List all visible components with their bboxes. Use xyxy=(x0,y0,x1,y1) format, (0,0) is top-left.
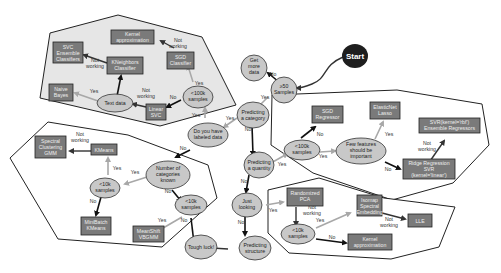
svg-text:looking: looking xyxy=(239,204,256,210)
decision-tough-luck[interactable]: Tough luck! xyxy=(185,235,217,259)
svg-text:No: No xyxy=(90,198,97,204)
svg-text:Samples: Samples xyxy=(274,89,295,95)
svg-text:important: important xyxy=(350,153,372,159)
estimator-isomap-spectral-embedding[interactable]: Isomap Spectral Embedding xyxy=(356,195,382,216)
svg-text:samples: samples xyxy=(95,187,115,193)
estimator-ridge-regression-svr-linear[interactable]: Ridge Regression SVR (kernel='linear') xyxy=(403,159,455,179)
decision-classification-lt100k[interactable]: <100k samples xyxy=(183,86,213,108)
svg-text:data: data xyxy=(249,69,259,75)
svg-text:No: No xyxy=(170,94,177,100)
decision-predicting-structure[interactable]: Predicting structure xyxy=(239,236,271,260)
svg-text:working: working xyxy=(86,63,104,69)
svg-text:No: No xyxy=(241,178,248,184)
svg-text:Yes: Yes xyxy=(261,94,270,100)
svg-text:Yes: Yes xyxy=(113,165,122,171)
estimator-svr-rbf-ensemble-regressors[interactable]: SVR(kernel='rbf') Ensemble Regressors xyxy=(419,118,480,133)
estimator-minibatch-kmeans[interactable]: MiniBatch KMeans xyxy=(81,217,111,235)
decision-clustering-lt10k-a[interactable]: <10k samples xyxy=(90,178,120,198)
svg-text:a category: a category xyxy=(241,115,266,121)
svg-text:Yes: Yes xyxy=(226,115,235,121)
svg-text:Tough luck!: Tough luck! xyxy=(188,244,214,250)
decision-predicting-quantity[interactable]: Predicting a quantity xyxy=(244,152,274,178)
svg-text:Yes: Yes xyxy=(195,80,204,86)
estimator-meanshift-vbgmm[interactable]: MeanShift VBGMM xyxy=(133,226,164,242)
estimator-naive-bayes[interactable]: Naive Bayes xyxy=(49,84,73,101)
svg-text:Classifier: Classifier xyxy=(114,65,136,71)
svg-text:LLE: LLE xyxy=(415,218,425,224)
svg-text:approximation: approximation xyxy=(354,242,387,248)
svg-text:Classifiers: Classifiers xyxy=(56,56,80,62)
decision-get-more-data[interactable]: Get more data xyxy=(241,55,267,81)
svg-text:structure: structure xyxy=(245,248,265,254)
estimator-kmeans[interactable]: KMeans xyxy=(91,144,117,155)
svg-text:Regressor: Regressor xyxy=(316,114,340,120)
svg-text:working: working xyxy=(380,222,398,228)
svg-text:samples: samples xyxy=(292,149,312,155)
decision-dimensionality-lt10k[interactable]: <10k samples xyxy=(281,224,315,244)
svg-text:Lasso: Lasso xyxy=(378,110,392,116)
svg-text:Yes: Yes xyxy=(131,169,140,175)
estimator-svc-ensemble-classifiers[interactable]: SVC Ensemble Classifiers xyxy=(53,42,83,63)
svg-text:labeled data: labeled data xyxy=(194,134,222,140)
svg-text:Ensemble Regressors: Ensemble Regressors xyxy=(424,125,475,131)
svg-text:Yes: Yes xyxy=(192,112,201,118)
svg-text:KMeans: KMeans xyxy=(94,147,113,153)
svg-text:working: working xyxy=(418,146,436,152)
svg-text:Text data: Text data xyxy=(104,100,125,106)
svg-text:Bayes: Bayes xyxy=(54,92,69,98)
svg-text:Start: Start xyxy=(346,52,365,61)
svg-text:samples: samples xyxy=(188,96,208,102)
svg-text:KMeans: KMeans xyxy=(86,225,105,231)
svg-text:No: No xyxy=(270,71,277,77)
svg-text:Yes: Yes xyxy=(278,161,287,167)
edge-category-no-quantity xyxy=(252,125,253,155)
estimator-spectral-clustering-gmm[interactable]: Spectral Clustering GMM xyxy=(35,136,66,158)
svg-text:Yes: Yes xyxy=(158,217,167,223)
svg-text:Yes: Yes xyxy=(319,153,328,159)
svg-text:a quantity: a quantity xyxy=(248,165,271,171)
svg-text:(kernel='linear'): (kernel='linear') xyxy=(411,172,447,178)
svg-text:No: No xyxy=(317,131,324,137)
estimator-randomized-pca[interactable]: Randomized PCA xyxy=(287,188,323,206)
svg-text:Yes: Yes xyxy=(385,131,394,137)
decision-number-of-categories[interactable]: Number of categories known xyxy=(146,161,190,189)
svg-text:Yes: Yes xyxy=(269,207,278,213)
start-node[interactable]: Start xyxy=(342,44,368,68)
decision-samples-gt50[interactable]: ≥50 Samples xyxy=(271,77,297,103)
svg-text:Classifier: Classifier xyxy=(170,60,192,66)
svg-text:SVC: SVC xyxy=(151,112,162,118)
estimator-linear-svc[interactable]: Linear SVC xyxy=(146,104,166,120)
svg-text:known: known xyxy=(161,177,176,183)
decision-labeled-data[interactable]: Do you have labeled data xyxy=(188,123,228,147)
svg-text:working: working xyxy=(137,93,155,99)
estimator-elasticnet-lasso[interactable]: ElasticNet Lasso xyxy=(370,102,400,119)
svg-text:working: working xyxy=(71,137,89,143)
estimator-sgd-regressor[interactable]: SGD Regressor xyxy=(312,106,343,123)
decision-clustering-lt10k-b[interactable]: <10k samples xyxy=(175,195,207,215)
decision-predicting-category[interactable]: Predicting a category xyxy=(237,102,269,128)
decision-just-looking[interactable]: Just looking xyxy=(232,193,262,217)
decision-few-features[interactable]: Few features should be important xyxy=(336,138,386,164)
svg-text:GMM: GMM xyxy=(44,150,57,156)
svg-text:VBGMM: VBGMM xyxy=(139,234,159,240)
svg-text:samples: samples xyxy=(288,233,308,239)
svg-text:working: working xyxy=(303,210,321,216)
estimator-kneighbors-classifier[interactable]: KNeighbors Classifier xyxy=(107,57,143,74)
svg-text:No: No xyxy=(329,234,336,240)
svg-text:PCA: PCA xyxy=(300,196,311,202)
svg-text:No: No xyxy=(238,219,245,225)
svg-text:Embedding: Embedding xyxy=(356,209,382,215)
svg-text:working: working xyxy=(169,43,187,49)
svg-text:Yes: Yes xyxy=(316,217,325,223)
svg-text:No: No xyxy=(181,217,188,223)
estimator-kernel-approximation-dimensionality[interactable]: Kernel approximation xyxy=(348,234,392,250)
svg-text:samples: samples xyxy=(181,204,201,210)
estimator-lle[interactable]: LLE xyxy=(408,214,432,227)
svg-text:Yes: Yes xyxy=(90,88,99,94)
svg-text:No: No xyxy=(180,145,187,151)
estimator-sgd-classifier[interactable]: SGD Classifier xyxy=(167,52,194,69)
decision-regression-lt100k[interactable]: <100k samples xyxy=(284,140,320,160)
estimator-kernel-approximation-classification[interactable]: Kernel approximation xyxy=(111,30,154,44)
algorithm-cheat-sheet-diagram: No Yes Yes No Yes No Yes Not working No … xyxy=(0,0,501,273)
decision-text-data[interactable]: Text data xyxy=(97,94,133,112)
